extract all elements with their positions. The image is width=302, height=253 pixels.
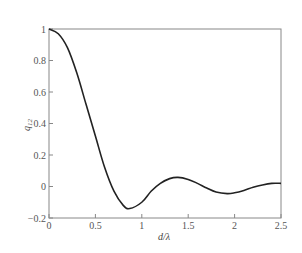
x-tick-label: 1 [139, 220, 144, 231]
y-tick-label: −0.2 [28, 213, 46, 224]
x-axis-ticks: 00.511.522.5 [47, 214, 288, 231]
y-tick-label: 0.4 [34, 118, 47, 129]
y-tick-label: 0 [41, 181, 46, 192]
y-tick-label: 0.8 [34, 55, 47, 66]
x-tick-label: 2.5 [275, 220, 288, 231]
x-tick-label: 2 [232, 220, 237, 231]
data-line-q12 [49, 29, 281, 209]
x-tick-label: 1.5 [182, 220, 195, 231]
x-axis-label: d/λ [158, 231, 171, 242]
y-tick-label: 0.2 [34, 150, 47, 161]
y-axis-label: q12 [21, 119, 34, 132]
y-tick-label: 0.6 [34, 87, 47, 98]
line-chart: 00.511.522.5 −0.200.20.40.60.81 d/λ q12 [0, 0, 302, 253]
x-tick-label: 0.5 [89, 220, 102, 231]
y-tick-label: 1 [41, 24, 46, 35]
x-tick-label: 0 [47, 220, 52, 231]
